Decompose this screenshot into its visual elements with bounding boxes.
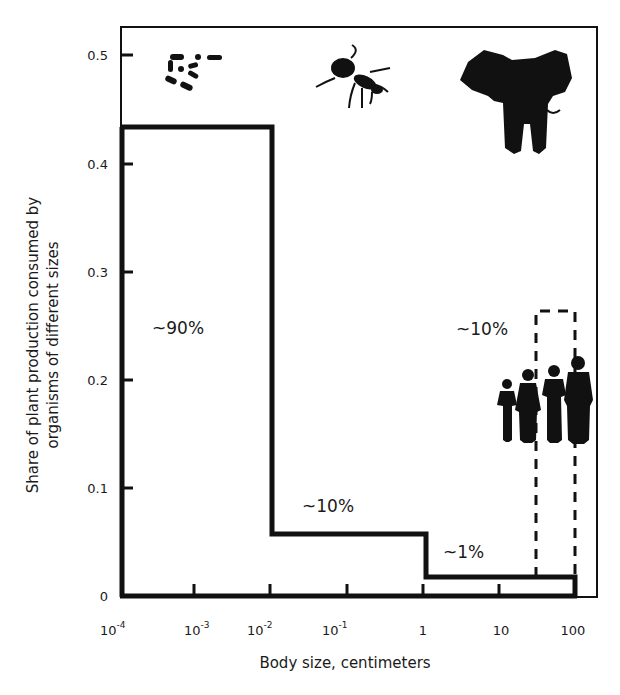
y-tick-label: 0.1 [87,481,108,496]
elephant-icon [460,50,572,154]
x-tick-label: 10-1 [322,620,348,638]
x-tick-label: 1 [419,623,427,638]
x-tick-label: 10-3 [184,620,210,638]
y-tick-label: 0.2 [87,373,108,388]
x-tick-label: 10-4 [100,620,126,638]
svg-text:Share of plant production cons: Share of plant production consumed by [24,197,42,494]
x-tick-label: 100 [561,623,586,638]
y-tick-label: 0 [100,589,108,604]
human-family-icon [497,356,593,444]
chart: 0.5 0.4 0.3 0.2 0.1 0 10-4 10-3 10-2 10-… [0,0,620,695]
annotation-10pct-humans: ~10% [456,319,508,339]
x-axis-title: Body size, centimeters [259,654,430,672]
svg-text:organisms of different sizes: organisms of different sizes [44,241,62,448]
ant-icon [316,45,390,108]
y-tick-label: 0.5 [87,48,108,63]
annotation-90pct: ~90% [152,318,204,338]
step-series [122,127,575,597]
human-dashed-box [536,311,575,577]
y-axis-title: Share of plant production consumed by or… [24,197,62,494]
bacteria-icon [164,54,222,92]
y-tick-label: 0.4 [87,157,108,172]
annotation-10pct-mid: ~10% [302,496,354,516]
y-tick-label: 0.3 [87,265,108,280]
annotation-1pct: ~1% [443,542,484,562]
x-tick-label: 10 [493,623,510,638]
x-tick-label: 10-2 [247,620,273,638]
